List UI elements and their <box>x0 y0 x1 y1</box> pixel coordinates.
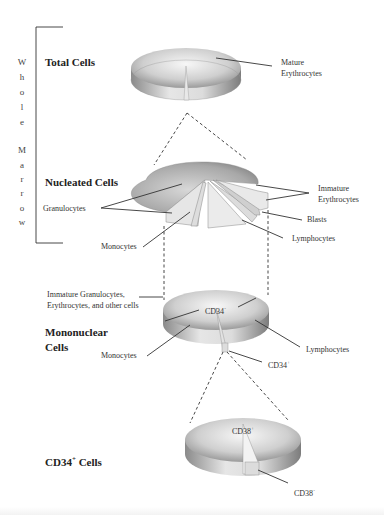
svg-text:h: h <box>20 72 25 82</box>
svg-text:r: r <box>21 188 24 198</box>
granulocytes-label: Granulocytes <box>43 204 86 213</box>
cd34-cells-title: CD34+ Cells <box>45 455 103 468</box>
svg-text:e: e <box>20 117 24 127</box>
whole-marrow-vertical-label: W h o l e M a r r o w <box>18 57 27 227</box>
leader-line <box>229 351 262 362</box>
cd34-plus-label: CD34+ <box>268 360 290 370</box>
leader-line <box>266 193 309 200</box>
nucleated-cells-level: Nucleated Cells Granulocytes Monocytes I… <box>0 0 359 251</box>
monocytes-label-2: Monocytes <box>101 351 137 360</box>
svg-text:r: r <box>21 174 24 184</box>
nucleated-cells-title: Nucleated Cells <box>45 176 119 188</box>
expansion-line <box>187 113 247 160</box>
leader-line <box>242 220 283 238</box>
immature-granulocytes-label-1: Immature Granulocytes, <box>47 290 125 299</box>
bone-marrow-hierarchy-diagram: W h o l e M a r r o w Total Cells Mature… <box>0 0 384 515</box>
immature-granulocytes-label-2: Erythrocytes, and other cells <box>47 301 139 310</box>
leader-line <box>256 185 309 193</box>
blasts-label: Blasts <box>307 215 327 224</box>
svg-text:l: l <box>21 102 24 112</box>
expansion-line <box>190 352 223 423</box>
mononuclear-title-line2: Cells <box>45 341 69 353</box>
svg-text:o: o <box>20 203 25 213</box>
cd38-minus-label: CD38- <box>294 488 315 498</box>
total-cells-pie <box>131 48 241 100</box>
lymphocytes-label: Lymphocytes <box>292 234 335 243</box>
nucleated-cells-pie <box>131 162 268 228</box>
cd34-minus-label: CD34- <box>205 306 226 316</box>
cd34-cells-level: CD34+ Cells CD38+ CD38- <box>45 418 315 498</box>
cd38-plus-label: CD38+ <box>232 426 254 436</box>
svg-text:a: a <box>20 160 24 170</box>
lymphocytes-label-2: Lymphocytes <box>306 345 349 354</box>
cropped-caption-strip <box>0 507 384 515</box>
immature-erythrocytes-label: ImmatureErythrocytes <box>318 184 359 204</box>
svg-text:W: W <box>18 57 27 67</box>
mononuclear-cells-level: Mononuclear Cells CD34- Immature Granulo… <box>45 290 349 370</box>
monocytes-label: Monocytes <box>101 242 137 251</box>
total-cells-title: Total Cells <box>45 56 96 68</box>
mature-erythrocytes-label: MatureErythrocytes <box>281 58 322 78</box>
total-cells-level: Total Cells MatureErythrocytes Mature Er… <box>0 0 322 100</box>
expansion-line <box>154 113 187 165</box>
svg-text:M: M <box>18 145 26 155</box>
svg-text:w: w <box>19 217 26 227</box>
svg-text:o: o <box>20 87 25 97</box>
mononuclear-title-line1: Mononuclear <box>45 326 108 338</box>
